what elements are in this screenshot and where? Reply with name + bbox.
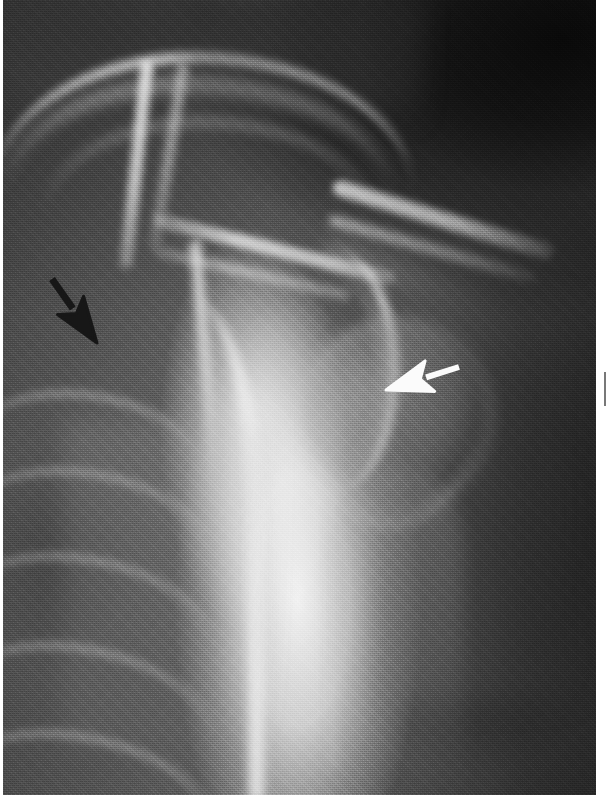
page-edge-mark [604,372,606,406]
paper-margin-left [0,0,3,801]
radiograph-figure [0,0,611,801]
paper-margin-bottom [0,795,611,801]
film-vignette [3,0,596,795]
radiograph-plate [3,0,596,795]
